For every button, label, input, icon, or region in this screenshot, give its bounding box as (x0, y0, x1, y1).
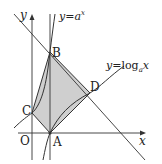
log-curve-label: y=logax (105, 59, 150, 74)
origin-label: O (20, 134, 30, 148)
x-axis-label: x (139, 134, 146, 148)
point-a-label: A (52, 135, 62, 149)
shaded-region-acbd (32, 52, 90, 133)
point-c-label: C (22, 104, 31, 118)
y-axis-arrow-icon (30, 14, 35, 20)
graph-figure: y x O A B C D y=ax y=logax (0, 0, 162, 164)
exp-curve-label: y=ax (58, 9, 85, 23)
point-a-marker (48, 131, 51, 134)
svg-text:y=ax: y=ax (58, 9, 85, 23)
line-bd (14, 14, 145, 160)
point-d-label: D (90, 80, 100, 94)
y-axis-label: y (19, 8, 27, 22)
point-b-label: B (52, 46, 61, 60)
svg-text:y=logax: y=logax (105, 59, 150, 74)
